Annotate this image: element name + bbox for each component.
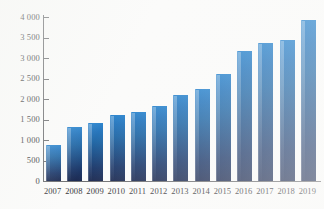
bar-highlight	[217, 75, 220, 180]
bar-chart-figure: 05001 0001 5002 0002 5003 0003 5004 000 …	[0, 0, 324, 209]
bar-highlight	[259, 44, 262, 180]
bar[interactable]	[173, 95, 188, 181]
bar[interactable]	[301, 20, 316, 181]
bar-highlight	[153, 107, 156, 180]
bar[interactable]	[280, 40, 295, 181]
bar-highlight	[132, 113, 135, 180]
y-axis-tick-label: 4 000	[0, 13, 40, 22]
y-axis-tick-label-text: 2 500	[2, 74, 40, 83]
y-axis-tick-label: 2 000	[0, 95, 40, 104]
y-axis-tick-label-text: 500	[2, 156, 40, 165]
y-axis-tick-label: 500	[0, 156, 40, 165]
y-axis-tick-label-text: 3 500	[2, 33, 40, 42]
bar-highlight	[302, 21, 305, 180]
x-axis-tick-label: 2019	[295, 186, 319, 196]
bar-highlight	[111, 116, 114, 180]
bar-slot	[193, 17, 214, 181]
bar[interactable]	[67, 127, 82, 181]
bar[interactable]	[195, 89, 210, 181]
bar-slot	[129, 17, 150, 181]
bar[interactable]	[152, 106, 167, 181]
bar[interactable]	[131, 112, 146, 181]
y-axis-tick-label-text: 1 000	[2, 136, 40, 145]
bar[interactable]	[88, 123, 103, 181]
bar-series	[44, 17, 320, 181]
y-axis-tick-label-text: 1 500	[2, 115, 40, 124]
y-axis-tick-label: 1 500	[0, 115, 40, 124]
bar-slot	[86, 17, 107, 181]
y-axis-tick-label-text: 0	[2, 177, 40, 186]
bar-slot	[44, 17, 65, 181]
y-axis-tick-label: 3 000	[0, 54, 40, 63]
bar-highlight	[196, 90, 199, 180]
bar-highlight	[238, 52, 241, 180]
bar[interactable]	[110, 115, 125, 181]
bar-highlight	[68, 128, 71, 180]
bar-highlight	[89, 124, 92, 180]
bar-slot	[278, 17, 299, 181]
bar-slot	[65, 17, 86, 181]
bar[interactable]	[258, 43, 273, 181]
bar-slot	[256, 17, 277, 181]
y-axis-tick-label: 3 500	[0, 33, 40, 42]
bar-slot	[150, 17, 171, 181]
bar[interactable]	[216, 74, 231, 181]
y-axis-tick-label-text: 3 000	[2, 54, 40, 63]
y-axis-tick-label-text: 2 000	[2, 95, 40, 104]
bar-slot	[171, 17, 192, 181]
bar-slot	[108, 17, 129, 181]
bar-highlight	[174, 96, 177, 180]
bar[interactable]	[237, 51, 252, 181]
bar[interactable]	[46, 145, 61, 181]
x-axis-labels: 2007200820092010201120122013201420152016…	[44, 186, 320, 200]
bar-slot	[299, 17, 320, 181]
bar-slot	[214, 17, 235, 181]
y-axis-tick-label: 1 000	[0, 136, 40, 145]
y-axis-tick-label: 0	[0, 177, 40, 186]
y-axis-tick	[44, 181, 49, 182]
x-axis-line	[43, 181, 321, 182]
bar-highlight	[281, 41, 284, 180]
y-axis-tick-label-text: 4 000	[2, 13, 40, 22]
bar-highlight	[47, 146, 50, 180]
y-axis-tick-label: 2 500	[0, 74, 40, 83]
bar-slot	[235, 17, 256, 181]
